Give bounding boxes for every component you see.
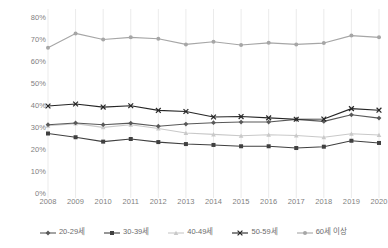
x-axis-tick-labels: 2008200920102011201220132014201520162017…	[0, 198, 387, 212]
legend-label: 20-29세	[59, 228, 85, 236]
y-tick-label: 10%	[12, 168, 46, 176]
circle-marker-icon	[297, 223, 313, 241]
x-tick-label: 2018	[315, 198, 332, 206]
x-tick-label: 2017	[288, 198, 305, 206]
y-tick-label: 20%	[12, 146, 46, 154]
legend-item-40-49세[interactable]: 40-49세	[168, 223, 213, 241]
y-tick-label: 80%	[12, 14, 46, 22]
x-tick-label: 2011	[122, 198, 139, 206]
x-tick-label: 2020	[370, 198, 387, 206]
legend-label: 40-49세	[187, 228, 213, 236]
y-tick-label: 40%	[12, 102, 46, 110]
y-tick-label: 60%	[12, 58, 46, 66]
square-marker-icon	[104, 223, 120, 241]
gridlines	[48, 9, 379, 198]
y-tick-label: 30%	[12, 124, 46, 132]
y-tick-label: 70%	[12, 36, 46, 44]
legend-item-30-39세[interactable]: 30-39세	[104, 223, 149, 241]
plot-svg	[0, 0, 387, 212]
legend-item-50-59세[interactable]: 50-59세	[232, 223, 277, 241]
x-tick-label: 2008	[39, 198, 56, 206]
legend-item-60세 이상[interactable]: 60세 이상	[297, 223, 347, 241]
cross-marker-icon	[232, 223, 248, 241]
x-tick-label: 2010	[95, 198, 112, 206]
x-tick-label: 2015	[233, 198, 250, 206]
legend-label: 50-59세	[251, 228, 277, 236]
y-axis-tick-labels: 0%10%20%30%40%50%60%70%80%	[6, 0, 46, 212]
legend-label: 30-39세	[123, 228, 149, 236]
legend-label: 60세 이상	[316, 228, 347, 236]
legend-item-20-29세[interactable]: 20-29세	[40, 223, 85, 241]
chart-legend: 20-29세30-39세40-49세50-59세60세 이상	[0, 224, 387, 240]
x-tick-label: 2019	[343, 198, 360, 206]
y-tick-label: 50%	[12, 80, 46, 88]
x-tick-label: 2009	[67, 198, 84, 206]
x-tick-label: 2012	[150, 198, 167, 206]
x-tick-label: 2014	[205, 198, 222, 206]
diamond-marker-icon	[40, 223, 56, 241]
x-tick-label: 2013	[177, 198, 194, 206]
plot-area	[0, 0, 387, 212]
triangle-marker-icon	[168, 223, 184, 241]
x-tick-label: 2016	[260, 198, 277, 206]
